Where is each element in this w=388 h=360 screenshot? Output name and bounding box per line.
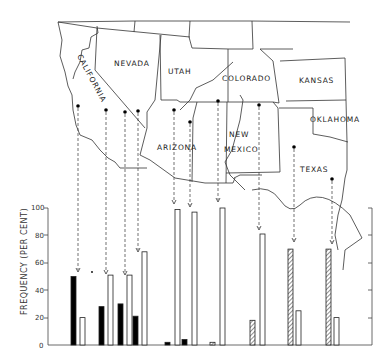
- bar-g1-open: [80, 318, 85, 345]
- bar-g10-hatched: [326, 249, 331, 345]
- bar-g6-solid: [182, 340, 187, 346]
- bar-g3-solid: [118, 304, 123, 345]
- bar-g7-hatched: [210, 342, 215, 345]
- y-tick-100: 100: [31, 204, 44, 212]
- bar-g3-open: [127, 275, 132, 345]
- y-axis-label: FREQUENCY (PER CENT): [20, 208, 29, 315]
- state-label-kansas: KANSAS: [299, 76, 334, 85]
- bar-g9-hatched: [288, 249, 293, 345]
- bar-g8-open: [260, 234, 265, 345]
- state-boundaries: [58, 21, 362, 270]
- y-tick-60: 60: [35, 259, 44, 267]
- y-tick-labels: 100 80 60 40 20 0: [31, 204, 44, 350]
- bar-g7-open: [220, 208, 225, 345]
- bar-g6-open: [192, 212, 197, 345]
- state-label-mexico: MEXICO: [224, 145, 259, 154]
- bar-g2-solid: [99, 307, 104, 345]
- state-label-nevada: NEVADA: [114, 59, 150, 68]
- bar-g1-solid: [71, 277, 76, 346]
- bar-g9-open: [296, 311, 301, 345]
- y-tick-40: 40: [35, 287, 44, 295]
- state-labels: NEVADA UTAH COLORADO KANSAS CALIFORNIA A…: [75, 53, 360, 174]
- bar-g8-hatched: [250, 320, 255, 345]
- y-tick-80: 80: [35, 232, 44, 240]
- state-label-oklahoma: OKLAHOMA: [310, 115, 360, 124]
- stray-mark: [91, 271, 93, 273]
- bars: [71, 208, 339, 345]
- bar-g10-open: [334, 318, 339, 345]
- state-label-utah: UTAH: [168, 67, 191, 76]
- map-and-frequency-chart: NEVADA UTAH COLORADO KANSAS CALIFORNIA A…: [0, 0, 388, 360]
- bar-g4-solid: [133, 316, 138, 345]
- arrow-heads: [76, 198, 334, 275]
- y-tick-20: 20: [35, 314, 44, 322]
- state-label-new: NEW: [229, 130, 249, 139]
- state-label-colorado: COLORADO: [222, 74, 271, 83]
- state-label-arizona: ARIZONA: [157, 143, 197, 152]
- state-label-california: CALIFORNIA: [75, 53, 108, 104]
- y-tick-0: 0: [39, 342, 43, 350]
- location-markers: [76, 99, 334, 273]
- bar-g5-solid: [165, 342, 170, 345]
- bar-g2-open: [108, 275, 113, 345]
- chart-axes: [44, 208, 372, 345]
- bar-g5-open: [175, 209, 180, 345]
- bar-g4-open: [142, 252, 147, 345]
- state-label-texas: TEXAS: [299, 165, 328, 174]
